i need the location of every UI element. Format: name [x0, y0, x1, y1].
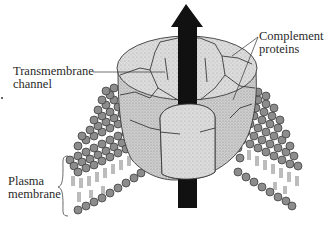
label-plasma-membrane-2: membrane: [8, 188, 61, 201]
curly-brace-plasma-membrane: [58, 156, 68, 216]
label-transmembrane-channel-2: channel: [13, 78, 52, 91]
stray-dot: [1, 97, 3, 99]
label-complement-proteins-2: proteins: [259, 43, 299, 56]
